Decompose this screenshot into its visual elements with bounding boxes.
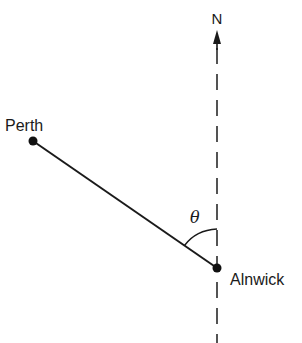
perth-alnwick-line: [33, 141, 217, 268]
alnwick-label: Alnwick: [230, 271, 285, 288]
angle-label-theta: θ: [190, 208, 200, 227]
bearing-diagram: N θ Perth Alnwick: [0, 0, 302, 343]
angle-arc: [185, 229, 218, 246]
north-arrow-icon: [213, 30, 221, 50]
perth-label: Perth: [5, 117, 43, 134]
perth-point: [29, 137, 38, 146]
alnwick-point: [213, 264, 222, 273]
north-label: N: [212, 10, 223, 27]
